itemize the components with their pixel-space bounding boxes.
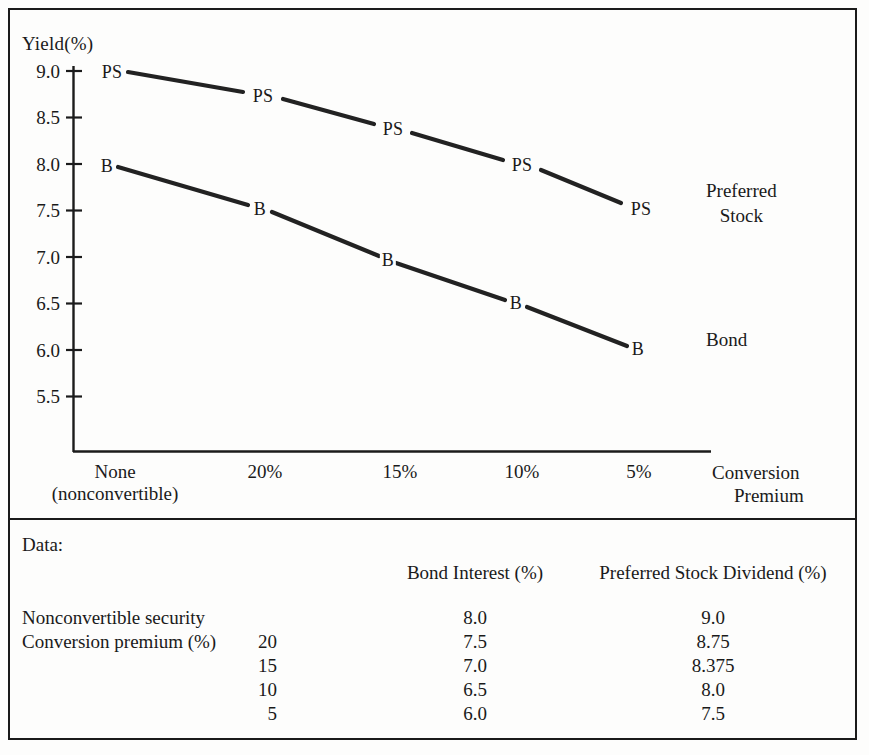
series-annotation-preferred-stock-line2: Stock bbox=[706, 203, 777, 228]
table-cell-bond-1: 7.5 bbox=[463, 631, 487, 653]
table-cell-bond-2: 7.0 bbox=[463, 655, 487, 677]
series-line-bond bbox=[118, 167, 627, 346]
data-point-b-20: B bbox=[252, 200, 268, 218]
column-header-bond-interest: Bond Interest (%) bbox=[407, 562, 543, 584]
data-point-ps-5: PS bbox=[629, 200, 654, 218]
x-tick-label-20: 20% bbox=[248, 461, 283, 482]
series-line-preferred-stock bbox=[128, 72, 621, 203]
x-axis-title: Conversion Premium bbox=[712, 461, 804, 507]
data-point-b-15: B bbox=[380, 251, 396, 269]
y-tick-label-8-5: 8.5 bbox=[14, 108, 60, 127]
x-tick-label-none-sub: (nonconvertible) bbox=[52, 482, 179, 505]
x-tick-label-5: 5% bbox=[626, 461, 651, 482]
table-cell-premium-10: 10 bbox=[243, 679, 277, 701]
y-tick-label-8-0: 8.0 bbox=[14, 155, 60, 174]
table-cell-premium-5: 5 bbox=[243, 703, 277, 725]
column-header-preferred-dividend: Preferred Stock Dividend (%) bbox=[599, 562, 826, 584]
table-cell-bond-3: 6.5 bbox=[463, 679, 487, 701]
x-tick-label-none: None (nonconvertible) bbox=[52, 461, 179, 505]
data-point-b-5: B bbox=[630, 340, 646, 358]
data-table-caption: Data: bbox=[22, 534, 63, 556]
table-cell-preferred-1: 8.75 bbox=[696, 631, 729, 653]
x-axis-title-line1: Conversion bbox=[712, 461, 804, 484]
row-label-conversion-premium: Conversion premium (%) bbox=[22, 631, 216, 653]
x-tick-label-15: 15% bbox=[383, 461, 418, 482]
y-tick-label-5-5: 5.5 bbox=[14, 387, 60, 406]
table-cell-premium-15: 15 bbox=[243, 655, 277, 677]
data-point-b-10: B bbox=[508, 294, 524, 312]
series-annotation-preferred-stock-line1: Preferred bbox=[706, 178, 777, 203]
row-label-nonconvertible: Nonconvertible security bbox=[22, 607, 205, 629]
x-tick-label-10: 10% bbox=[505, 461, 540, 482]
y-tick-label-6-5: 6.5 bbox=[14, 294, 60, 313]
table-cell-bond-0: 8.0 bbox=[463, 607, 487, 629]
chart-canvas bbox=[0, 0, 869, 518]
data-point-ps-15: PS bbox=[381, 120, 406, 138]
figure-root: Yield(%) bbox=[0, 0, 869, 755]
data-table-panel: Data: Bond Interest (%) Preferred Stock … bbox=[0, 518, 869, 755]
y-tick-label-7-5: 7.5 bbox=[14, 201, 60, 220]
table-cell-preferred-2: 8.375 bbox=[692, 655, 735, 677]
table-cell-preferred-3: 8.0 bbox=[701, 679, 725, 701]
data-point-ps-10: PS bbox=[510, 156, 535, 174]
y-tick-label-9-0: 9.0 bbox=[14, 62, 60, 81]
series-annotation-bond: Bond bbox=[706, 327, 747, 352]
series-annotation-preferred-stock: Preferred Stock bbox=[706, 178, 777, 228]
table-cell-preferred-4: 7.5 bbox=[701, 703, 725, 725]
y-tick-label-6-0: 6.0 bbox=[14, 341, 60, 360]
table-cell-premium-20: 20 bbox=[243, 631, 277, 653]
series-annotation-bond-line1: Bond bbox=[706, 327, 747, 352]
data-point-ps-none: PS bbox=[100, 63, 125, 81]
x-axis-title-line2: Premium bbox=[712, 484, 804, 507]
y-tick-label-7-0: 7.0 bbox=[14, 248, 60, 267]
table-cell-bond-4: 6.0 bbox=[463, 703, 487, 725]
table-cell-preferred-0: 9.0 bbox=[701, 607, 725, 629]
chart-panel: Yield(%) bbox=[0, 0, 869, 518]
data-point-ps-20: PS bbox=[251, 87, 276, 105]
x-tick-label-none-main: None bbox=[94, 461, 135, 482]
data-point-b-none: B bbox=[99, 157, 115, 175]
